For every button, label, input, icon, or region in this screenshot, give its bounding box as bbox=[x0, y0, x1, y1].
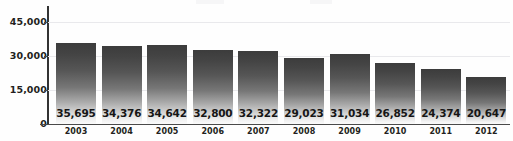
x-tick-label: 2010 bbox=[372, 127, 418, 136]
bar-group[interactable]: 20,647 bbox=[466, 6, 506, 124]
x-tick-label: 2003 bbox=[53, 127, 99, 136]
y-axis-labels: 015,00030,00045,000 bbox=[0, 0, 47, 141]
x-axis-labels: 2003200420052006200720082009201020112012 bbox=[48, 127, 510, 141]
bar-group[interactable]: 31,034 bbox=[330, 6, 370, 124]
y-tick-label: 15,000 bbox=[3, 84, 47, 95]
bar-value-label: 24,374 bbox=[418, 107, 464, 119]
bar-group[interactable]: 32,322 bbox=[238, 6, 278, 124]
bar-group[interactable]: 29,023 bbox=[284, 6, 324, 124]
y-tick-label: 45,000 bbox=[3, 16, 47, 27]
bar-value-label: 35,695 bbox=[53, 107, 99, 119]
bar-value-label: 31,034 bbox=[327, 107, 373, 119]
bar-group[interactable]: 24,374 bbox=[421, 6, 461, 124]
bar-group[interactable]: 34,376 bbox=[102, 6, 142, 124]
bar-value-label: 20,647 bbox=[463, 107, 509, 119]
x-axis-line bbox=[40, 124, 510, 125]
x-tick-label: 2004 bbox=[99, 127, 145, 136]
bar-value-label: 34,642 bbox=[144, 107, 190, 119]
x-tick-label: 2012 bbox=[463, 127, 509, 136]
bar-value-label: 32,800 bbox=[190, 107, 236, 119]
bar-group[interactable]: 34,642 bbox=[147, 6, 187, 124]
x-tick-label: 2007 bbox=[235, 127, 281, 136]
bar-value-label: 32,322 bbox=[235, 107, 281, 119]
x-tick-label: 2009 bbox=[327, 127, 373, 136]
x-tick-label: 2011 bbox=[418, 127, 464, 136]
plot-area: 35,69534,37634,64232,80032,32229,02331,0… bbox=[48, 6, 510, 124]
y-tick-label: 30,000 bbox=[3, 50, 47, 61]
bar-value-label: 34,376 bbox=[99, 107, 145, 119]
bar-value-label: 26,852 bbox=[372, 107, 418, 119]
bar-group[interactable]: 32,800 bbox=[193, 6, 233, 124]
x-tick-label: 2005 bbox=[144, 127, 190, 136]
bar-chart: 015,00030,00045,000 35,69534,37634,64232… bbox=[0, 0, 513, 141]
bar-group[interactable]: 26,852 bbox=[375, 6, 415, 124]
x-tick-label: 2006 bbox=[190, 127, 236, 136]
x-tick-label: 2008 bbox=[281, 127, 327, 136]
crop-artifact-left bbox=[196, 0, 224, 4]
bar-group[interactable]: 35,695 bbox=[56, 6, 96, 124]
crop-artifact-right bbox=[310, 0, 332, 4]
bar-value-label: 29,023 bbox=[281, 107, 327, 119]
